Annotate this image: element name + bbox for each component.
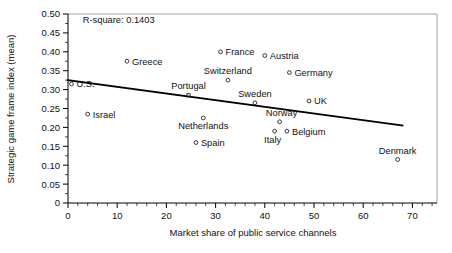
data-point: Italy <box>264 129 281 145</box>
y-tick-label: 0.45 <box>42 27 61 38</box>
data-point: Austria <box>263 51 300 61</box>
plot-canvas: 00.050.100.150.200.250.300.350.400.450.5… <box>0 0 452 253</box>
data-point: Switzerland <box>204 66 252 82</box>
data-point: Denmark <box>379 146 417 162</box>
data-point: Spain <box>194 138 225 148</box>
data-point-label: Norway <box>266 108 298 118</box>
data-point: Norway <box>266 108 298 124</box>
data-point-label: Greece <box>132 57 163 67</box>
x-tick-label: 0 <box>65 210 70 221</box>
y-tick-label: 0.50 <box>42 8 61 19</box>
data-point: Sweden <box>238 89 272 105</box>
y-tick-label: 0.15 <box>42 141 61 152</box>
y-tick-label: 0.35 <box>42 65 61 76</box>
y-axis-title: Strategic game frame index (mean) <box>5 35 16 184</box>
data-point-label: Germany <box>294 68 333 78</box>
data-point: Greece <box>125 57 162 67</box>
data-point-label: Israel <box>93 110 116 120</box>
data-point-label: UK <box>314 96 328 106</box>
x-tick-label: 60 <box>358 210 369 221</box>
y-tick-label: 0.30 <box>42 84 61 95</box>
data-point-label: Denmark <box>379 146 417 156</box>
data-point-label: Netherlands <box>178 121 228 131</box>
y-tick-label: 0.20 <box>42 122 61 133</box>
data-point: Belgium <box>285 127 326 137</box>
data-point: UK <box>307 96 328 106</box>
y-tick-label: 0.05 <box>42 179 61 190</box>
x-tick-label: 40 <box>260 210 271 221</box>
data-point-label: Italy <box>264 135 281 145</box>
x-axis-title: Market share of public service channels <box>170 227 337 238</box>
x-tick-label: 10 <box>112 210 123 221</box>
y-tick-label: 0.40 <box>42 46 61 57</box>
x-tick-label: 70 <box>407 210 418 221</box>
data-point: Netherlands <box>178 116 228 131</box>
data-point-label: Switzerland <box>204 66 252 76</box>
data-point: France <box>219 47 255 57</box>
data-point-label: Belgium <box>292 127 326 137</box>
y-tick-label: 0.10 <box>42 160 61 171</box>
x-tick-label: 20 <box>161 210 172 221</box>
r-square-annotation: R-square: 0.1403 <box>83 15 155 25</box>
regression-line <box>68 80 403 125</box>
plot-frame <box>68 14 437 203</box>
x-tick-label: 50 <box>309 210 320 221</box>
scatter-plot-figure: 00.050.100.150.200.250.300.350.400.450.5… <box>0 0 452 253</box>
data-point-label: France <box>226 47 255 57</box>
data-point-label: Portugal <box>171 81 206 91</box>
axis-ticks <box>63 14 432 208</box>
chart-annotations: R-square: 0.1403 <box>83 15 155 25</box>
data-point-label: Austria <box>270 51 300 61</box>
x-tick-label: 30 <box>210 210 221 221</box>
data-point-label: Sweden <box>238 89 272 99</box>
y-tick-label: 0 <box>55 197 60 208</box>
data-point: Germany <box>288 68 333 78</box>
y-tick-label: 0.25 <box>42 103 61 114</box>
data-point-label: U.S. <box>76 79 94 89</box>
data-point-label: Spain <box>201 138 225 148</box>
data-point: Israel <box>86 110 116 120</box>
